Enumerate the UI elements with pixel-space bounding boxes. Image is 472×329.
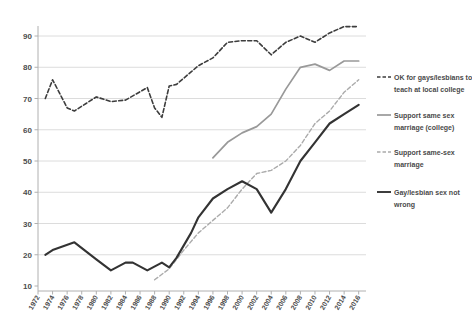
- x-axis-tick-label: 1980: [85, 294, 99, 311]
- x-axis-tick-label: 1994: [187, 294, 201, 311]
- y-axis-tick-label: 20: [23, 251, 32, 260]
- x-axis-tick-label: 1990: [158, 294, 172, 311]
- legend-label: Support same sex: [394, 112, 454, 120]
- x-axis-tick-label: 2014: [333, 294, 347, 311]
- y-axis-tick-label: 90: [23, 32, 32, 41]
- x-axis-tick-label: 1996: [202, 294, 216, 311]
- x-axis-tick-label: 2012: [319, 294, 333, 311]
- y-axis-tick-label: 40: [23, 188, 32, 197]
- chart-page: 1020304050607080901972197419761978198019…: [0, 0, 472, 329]
- legend-label: wrong: [393, 201, 415, 209]
- x-axis-tick-label: 1974: [42, 294, 56, 311]
- x-axis-tick-label: 1992: [173, 294, 187, 311]
- x-axis-tick-label: 1984: [114, 294, 128, 311]
- x-axis-tick-label: 1986: [129, 294, 143, 311]
- x-axis-tick-label: 1988: [144, 294, 158, 311]
- series-line-0: [45, 27, 358, 118]
- y-axis-tick-label: 50: [23, 157, 32, 166]
- y-axis-tick-label: 70: [23, 95, 32, 104]
- y-axis-tick-label: 80: [23, 63, 32, 72]
- legend-label: marriage: [394, 161, 424, 169]
- trend-line-chart: 1020304050607080901972197419761978198019…: [0, 0, 472, 329]
- legend-label: teach at local college: [394, 86, 465, 94]
- y-axis-tick-label: 60: [23, 126, 32, 135]
- x-axis-tick-label: 2004: [260, 294, 274, 311]
- legend-label: Gay/lesbian sex not: [394, 189, 460, 197]
- y-axis-tick-label: 30: [23, 220, 32, 229]
- x-axis-tick-label: 1998: [217, 294, 231, 311]
- y-axis-tick-label: 10: [23, 282, 32, 291]
- legend-label: marriage (college): [394, 124, 454, 132]
- series-line-2: [155, 80, 359, 280]
- x-axis-tick-label: 1982: [100, 294, 114, 311]
- legend-label: Support same-sex: [394, 149, 455, 157]
- x-axis-tick-label: 1978: [71, 294, 85, 311]
- x-axis-tick-label: 2016: [348, 294, 362, 311]
- x-axis-tick-label: 2006: [275, 294, 289, 311]
- x-axis-tick-label: 1972: [27, 294, 41, 311]
- series-line-1: [213, 61, 359, 158]
- legend-label: OK for gays/lesbians to: [394, 74, 472, 82]
- x-axis-tick-label: 2000: [231, 294, 245, 311]
- x-axis-tick-label: 1976: [56, 294, 70, 311]
- x-axis-tick-label: 2010: [304, 294, 318, 311]
- x-axis-tick-label: 2008: [289, 294, 303, 311]
- x-axis-tick-label: 2002: [246, 294, 260, 311]
